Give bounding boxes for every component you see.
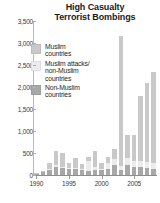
bar-segment-muslim: [125, 135, 130, 158]
bar-segment-nonmuslim: [106, 169, 111, 175]
chart-title: High Casualty Terrorist Bombings: [34, 2, 156, 22]
bar-segment-nonmuslim: [125, 165, 130, 175]
bar-group-2006: [138, 96, 143, 175]
y-axis-tick-mark: [33, 65, 36, 66]
bar-group-2003: [119, 36, 124, 175]
bar-segment-muslim: [54, 151, 59, 166]
bar-group-1998: [86, 157, 91, 175]
bar-group-2001: [106, 157, 111, 175]
x-axis-tick-label: 1995: [56, 180, 82, 187]
bar-group-1995: [67, 163, 72, 175]
bar-segment-muslim: [145, 83, 150, 162]
bar-group-2000: [99, 163, 104, 175]
bar-group-1993: [54, 151, 59, 175]
y-axis-tick-label: 3,000: [5, 40, 33, 47]
bar-segment-nonmuslim: [112, 165, 117, 175]
bar-segment-nonmuslim: [145, 168, 150, 175]
y-axis-tick-label: 500: [5, 150, 33, 157]
bar-segment-nonmuslim: [47, 170, 52, 175]
bar-segment-nonmuslim: [54, 167, 59, 175]
legend-item-label: Muslimcountries: [45, 43, 71, 58]
bar-group-1997: [80, 164, 85, 175]
bar-group-1992: [47, 163, 52, 175]
bar-segment-muslim: [112, 149, 117, 159]
y-axis-tick-label: 0: [5, 172, 33, 179]
x-axis-line: [33, 175, 157, 176]
bar-segment-muslim: [60, 153, 65, 166]
bar-segment-muslim: [138, 96, 143, 161]
legend-item-1[interactable]: Muslim attacks/non-Muslimcountries: [31, 60, 115, 82]
y-axis-tick-label: 2,500: [5, 62, 33, 69]
bar-segment-nonmuslim: [93, 170, 98, 175]
legend-item-label: Muslim attacks/non-Muslimcountries: [45, 60, 90, 82]
bar-group-2008: [151, 72, 156, 175]
chart-legend: MuslimcountriesMuslim attacks/non-Muslim…: [31, 43, 115, 101]
legend-item-label: Non-Muslimcountries: [45, 84, 80, 99]
y-axis-tick-label: 1,500: [5, 106, 33, 113]
bar-segment-nonmuslim: [86, 171, 91, 175]
bar-segment-nonmuslim: [80, 170, 85, 175]
bar-segment-nonmuslim: [41, 172, 46, 175]
bar-segment-nonmuslim: [138, 167, 143, 175]
bar-segment-nonmuslim: [119, 170, 124, 175]
y-axis: 05001,0001,5002,0002,5003,0003,500: [0, 0, 33, 203]
y-axis-tick-label: 3,500: [5, 18, 33, 25]
legend-swatch-icon: [31, 44, 41, 54]
x-axis-tick-mark: [102, 176, 103, 179]
bar-segment-nonmuslim: [67, 169, 72, 175]
x-axis-tick-mark: [134, 176, 135, 179]
bar-segment-nonmuslim: [99, 170, 104, 175]
bar-segment-attacks: [125, 158, 130, 165]
chart-card: High Casualty Terrorist Bombings 05001,0…: [0, 0, 160, 203]
bar-group-2007: [145, 83, 150, 175]
bar-segment-muslim: [106, 157, 111, 164]
bar-group-1994: [60, 153, 65, 175]
bar-segment-attacks: [86, 161, 91, 171]
bar-group-1996: [73, 158, 78, 175]
y-axis-tick-mark: [33, 131, 36, 132]
bar-group-1999: [93, 151, 98, 175]
chart-title-line-1: High Casualty: [34, 2, 156, 12]
bar-group-2002: [112, 149, 117, 175]
bar-segment-nonmuslim: [151, 169, 156, 175]
x-axis-tick-mark: [69, 176, 70, 179]
y-axis-tick-mark: [33, 109, 36, 110]
x-axis-tick-label: 2005: [121, 180, 147, 187]
y-axis-tick-mark: [33, 153, 36, 154]
bar-segment-nonmuslim: [73, 169, 78, 175]
bar-segment-muslim: [151, 72, 156, 164]
bar-group-2005: [132, 135, 137, 175]
bar-segment-muslim: [119, 36, 124, 166]
bar-segment-muslim: [93, 151, 98, 167]
y-axis-tick-mark: [33, 43, 36, 44]
bar-group-2004: [125, 135, 130, 175]
x-axis-tick-mark: [36, 176, 37, 179]
x-axis-tick-label: 2000: [89, 180, 115, 187]
bar-group-1991: [41, 171, 46, 175]
y-axis-tick-mark: [33, 21, 36, 22]
x-axis-tick-label: 1990: [23, 180, 49, 187]
legend-item-2[interactable]: Non-Muslimcountries: [31, 84, 115, 99]
bar-segment-nonmuslim: [132, 167, 137, 175]
legend-item-0[interactable]: Muslimcountries: [31, 43, 115, 58]
y-axis-tick-label: 2,000: [5, 84, 33, 91]
y-axis-tick-mark: [33, 87, 36, 88]
bar-segment-muslim: [73, 158, 78, 167]
y-axis-tick-label: 1,000: [5, 128, 33, 135]
bar-segment-muslim: [132, 135, 137, 161]
bar-segment-nonmuslim: [60, 168, 65, 175]
